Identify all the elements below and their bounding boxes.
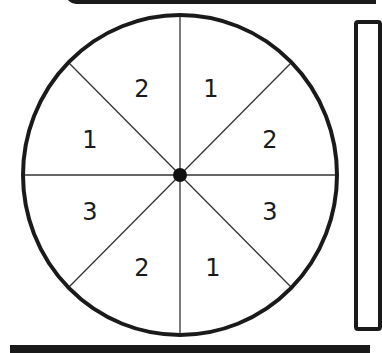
sector-label-bottom-right: 1 [205, 254, 220, 282]
side-frame-panel [354, 20, 382, 331]
bottom-frame-bar [10, 345, 370, 353]
sector-label-left-upper: 1 [82, 126, 97, 154]
sector-label-top-right: 1 [203, 75, 218, 103]
spinner-hub [173, 168, 187, 182]
sector-label-right-lower: 3 [262, 198, 277, 226]
sector-label-top-left: 2 [134, 75, 149, 103]
sector-label-bottom-left: 2 [134, 254, 149, 282]
sector-label-right-upper: 2 [262, 126, 277, 154]
sector-label-left-lower: 3 [82, 198, 97, 226]
